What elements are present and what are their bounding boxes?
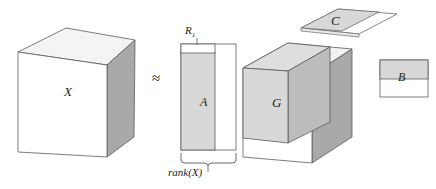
label-b: B [398,70,405,85]
label-r1: R1 [185,24,195,39]
label-x: X [64,84,72,100]
tensor-decomposition-figure: X ≈ A G C B R1 rank(X) [0,0,436,189]
block-g [243,43,352,163]
label-r1-base: R [185,24,192,36]
label-rank-x: rank(X) [168,166,202,178]
label-r1-subscript: 1 [192,31,196,39]
label-g: G [272,95,281,111]
block-x [18,28,135,157]
a-shaded-column [181,52,215,150]
a-rank-brace [181,153,236,166]
block-c [301,9,397,37]
label-c: C [331,13,340,29]
a-top-strip [181,44,215,53]
x-front-face [18,52,107,157]
approx-symbol: ≈ [152,70,160,87]
label-a: A [200,95,207,110]
block-a [181,38,236,172]
